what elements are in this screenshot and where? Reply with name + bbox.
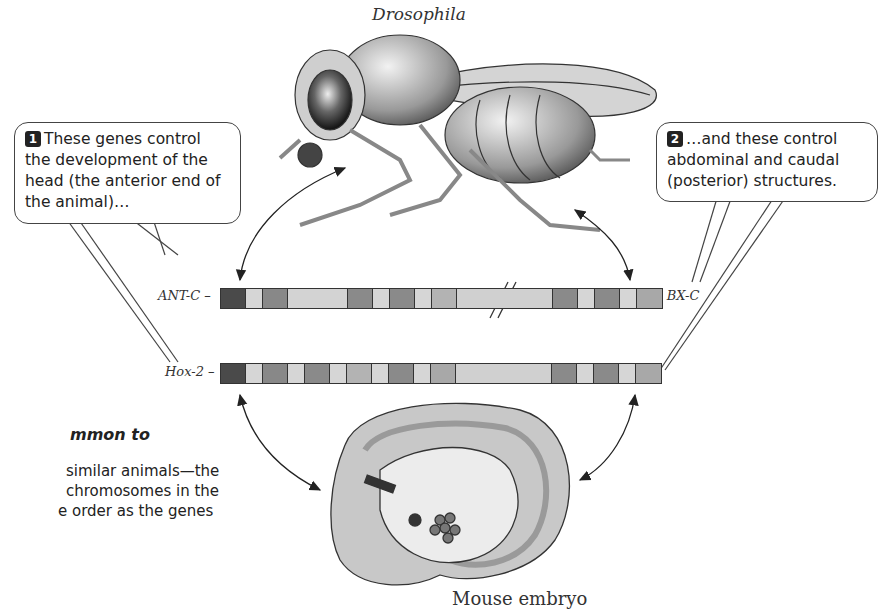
side-explanation-text: mmon to similar animals—the chromosomes … bbox=[0, 425, 219, 521]
gene-segment bbox=[246, 289, 263, 308]
gene-segment bbox=[288, 364, 305, 383]
gene-segment bbox=[246, 364, 263, 383]
step-number-badge: 2 bbox=[667, 131, 683, 147]
drosophila-gene-cluster-bar bbox=[220, 288, 663, 309]
gene-segment bbox=[577, 364, 594, 383]
mouse-hox-cluster-bar bbox=[220, 363, 662, 384]
step-number-badge: 1 bbox=[25, 131, 41, 147]
gene-segment bbox=[305, 364, 330, 383]
gene-segment bbox=[221, 289, 246, 308]
gene-segment bbox=[636, 364, 661, 383]
gene-segment bbox=[414, 364, 431, 383]
gene-segment bbox=[389, 364, 414, 383]
gene-label-hox-2: Hox-2 – bbox=[165, 364, 215, 379]
gene-segment bbox=[288, 289, 348, 308]
callout-text: These genes control the development of t… bbox=[25, 130, 221, 211]
side-heading: mmon to bbox=[70, 425, 219, 445]
side-line: similar animals—the bbox=[66, 461, 219, 481]
gene-segment bbox=[372, 364, 389, 383]
gene-segment bbox=[578, 289, 595, 308]
callout-text: …and these control abdominal and caudal … bbox=[667, 130, 839, 190]
gene-segment bbox=[595, 289, 620, 308]
gene-segment bbox=[553, 289, 578, 308]
callout-posterior-genes: 2…and these control abdominal and caudal… bbox=[656, 122, 878, 202]
gene-segment bbox=[637, 289, 662, 308]
gene-segment bbox=[263, 364, 288, 383]
gene-segment bbox=[373, 289, 390, 308]
gene-segment bbox=[330, 364, 347, 383]
gene-segment bbox=[390, 289, 415, 308]
side-line: e order as the genes bbox=[58, 501, 219, 521]
callout-anterior-genes: 1These genes control the development of … bbox=[14, 122, 241, 224]
gene-segment bbox=[347, 364, 372, 383]
gene-segment bbox=[431, 364, 456, 383]
gene-segment bbox=[432, 289, 457, 308]
gene-segment bbox=[221, 364, 246, 383]
gene-segment bbox=[263, 289, 288, 308]
gene-segment bbox=[456, 364, 552, 383]
gene-segment bbox=[620, 289, 637, 308]
gene-segment bbox=[348, 289, 373, 308]
side-line: chromosomes in the bbox=[66, 481, 219, 501]
gene-segment bbox=[552, 364, 577, 383]
drosophila-illustration bbox=[280, 35, 656, 230]
gene-segment bbox=[415, 289, 432, 308]
gene-segment bbox=[457, 289, 553, 308]
gene-segment bbox=[619, 364, 636, 383]
mouse-embryo-illustration bbox=[331, 403, 569, 584]
gene-segment bbox=[594, 364, 619, 383]
gene-label-ant-c: ANT-C – bbox=[158, 288, 211, 303]
